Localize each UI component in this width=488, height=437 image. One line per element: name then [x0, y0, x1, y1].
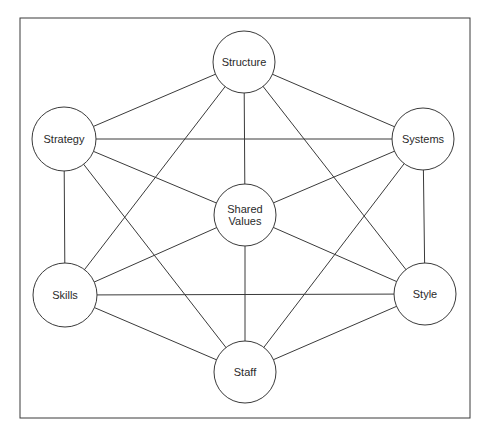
nodes: StructureStrategySystemsSharedValuesSkil… — [32, 31, 456, 403]
node-label: Strategy — [44, 133, 85, 145]
node-label: Staff — [234, 366, 257, 378]
edge-structure-skills — [65, 62, 244, 295]
node-label: Structure — [222, 56, 267, 68]
node-label: Skills — [52, 289, 78, 301]
node-structure: Structure — [213, 31, 275, 93]
node-strategy: Strategy — [32, 107, 96, 171]
node-shared-values: SharedValues — [214, 184, 276, 246]
node-systems: Systems — [392, 108, 454, 170]
seven-s-diagram: StructureStrategySystemsSharedValuesSkil… — [0, 0, 488, 437]
edge-systems-staff — [245, 139, 423, 372]
node-label: Systems — [402, 133, 445, 145]
node-style: Style — [394, 263, 456, 325]
edge-structure-style — [244, 62, 425, 294]
edge-skills-style — [65, 294, 425, 295]
node-label: Shared — [227, 203, 262, 215]
node-label: Style — [413, 288, 437, 300]
node-label: Values — [229, 215, 262, 227]
node-staff: Staff — [214, 341, 276, 403]
node-skills: Skills — [33, 263, 97, 327]
